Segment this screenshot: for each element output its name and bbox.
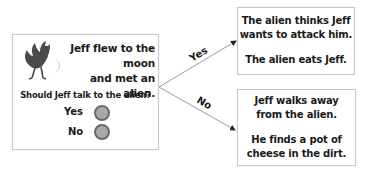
no-outcome-line-4: cheese in the dirt.: [238, 147, 355, 161]
option-yes-radio[interactable]: [94, 105, 110, 121]
no-outcome-line-3: He finds a pot of: [238, 133, 355, 147]
yes-outcome-line-2: wants to attack him.: [238, 28, 354, 42]
yes-outcome-line-1: The alien thinks Jeff: [238, 14, 354, 28]
option-yes-label: Yes: [64, 106, 83, 117]
yes-branch-label: Yes: [187, 44, 210, 64]
no-outcome-box: Jeff walks away from the alien. He finds…: [237, 89, 356, 166]
question-text: Should Jeff talk to the alien?: [13, 90, 158, 100]
option-no-label: No: [68, 126, 83, 137]
option-no-radio[interactable]: [94, 124, 110, 140]
no-arrow: [159, 87, 235, 130]
yes-outcome-line-3: The alien eats Jeff.: [238, 53, 354, 67]
question-box: Jeff flew to the moon and met an alien. …: [12, 34, 159, 150]
moon-icon: [49, 58, 61, 74]
no-outcome-line-1: Jeff walks away: [238, 94, 355, 108]
no-outcome-line-2: from the alien.: [238, 108, 355, 122]
yes-outcome-box: The alien thinks Jeff wants to attack hi…: [237, 7, 355, 75]
story-line-1: Jeff flew to the moon: [65, 41, 155, 71]
